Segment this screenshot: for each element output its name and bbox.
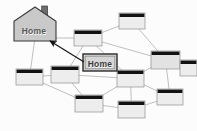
node-header-bar xyxy=(158,90,183,93)
network-node-3[interactable] xyxy=(151,51,180,69)
node-header-bar xyxy=(181,61,197,64)
network-node-10[interactable] xyxy=(180,60,197,76)
network-graph xyxy=(0,0,197,131)
node-header-bar xyxy=(75,31,102,34)
node-header-bar xyxy=(120,14,145,17)
network-node-5[interactable] xyxy=(51,66,79,83)
node-header-bar xyxy=(118,71,144,74)
network-node-4[interactable] xyxy=(16,69,43,85)
home-callout-box[interactable] xyxy=(83,54,117,71)
network-node-6[interactable] xyxy=(117,70,144,87)
house-body-shape xyxy=(14,7,56,41)
node-header-bar xyxy=(76,96,103,99)
diagram-canvas: Home Home xyxy=(0,0,197,131)
house-icon[interactable] xyxy=(14,6,56,41)
network-node-1[interactable] xyxy=(74,30,102,46)
network-node-7[interactable] xyxy=(75,95,103,112)
network-node-9[interactable] xyxy=(157,89,183,105)
network-node-8[interactable] xyxy=(118,101,145,118)
node-header-bar xyxy=(119,102,145,105)
network-node-2[interactable] xyxy=(119,13,145,29)
node-header-bar xyxy=(52,67,79,70)
node-header-bar xyxy=(17,70,43,73)
node-header-bar xyxy=(152,52,180,55)
